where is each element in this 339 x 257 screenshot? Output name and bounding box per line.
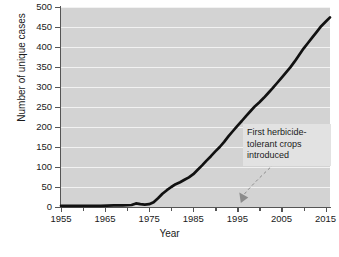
y-tick xyxy=(55,107,60,108)
y-tick xyxy=(55,47,60,48)
x-tick-label: 1985 xyxy=(173,214,213,224)
y-tick xyxy=(55,207,60,208)
y-tick xyxy=(55,27,60,28)
y-axis-title: Number of unique cases xyxy=(16,0,27,143)
x-tick-minor xyxy=(171,208,172,211)
x-tick xyxy=(326,208,327,212)
y-tick xyxy=(55,187,60,188)
x-tick-minor xyxy=(215,208,216,211)
x-tick-label: 2005 xyxy=(261,214,301,224)
x-tick xyxy=(149,208,150,212)
gridline xyxy=(61,187,330,188)
gridline xyxy=(61,47,330,48)
y-tick xyxy=(55,167,60,168)
gridline xyxy=(61,87,330,88)
x-tick-label: 1965 xyxy=(85,214,125,224)
gridline xyxy=(61,27,330,28)
x-tick-label: 1955 xyxy=(41,214,81,224)
gridline xyxy=(61,67,330,68)
x-axis-line xyxy=(60,207,331,208)
x-axis-title: Year xyxy=(0,228,339,239)
x-tick xyxy=(193,208,194,212)
gridline xyxy=(61,167,330,168)
x-tick-minor xyxy=(83,208,84,211)
annotation-herbicide-tolerant-crops: First herbicide- tolerant crops introduc… xyxy=(243,124,331,166)
x-tick-label: 1975 xyxy=(129,214,169,224)
x-tick xyxy=(281,208,282,212)
y-tick xyxy=(55,87,60,88)
x-tick xyxy=(237,208,238,212)
y-tick xyxy=(55,67,60,68)
gridline xyxy=(61,107,330,108)
x-tick xyxy=(105,208,106,212)
plot-area xyxy=(61,7,330,207)
gridline xyxy=(61,7,330,8)
y-tick-label: 50 xyxy=(0,182,52,192)
annotation-line-3: introduced xyxy=(247,150,328,162)
y-tick-label: 0 xyxy=(0,202,52,212)
x-tick-label: 2015 xyxy=(306,214,339,224)
x-tick-minor xyxy=(304,208,305,211)
x-tick-label: 1995 xyxy=(217,214,257,224)
y-tick xyxy=(55,147,60,148)
chart-figure: 050100150200250300350400450500 195519651… xyxy=(0,0,339,257)
x-tick-minor xyxy=(259,208,260,211)
caption-fragment xyxy=(0,247,339,257)
y-axis-line xyxy=(60,6,61,208)
y-tick xyxy=(55,7,60,8)
x-tick-minor xyxy=(127,208,128,211)
y-tick-label: 100 xyxy=(0,162,52,172)
y-tick xyxy=(55,127,60,128)
annotation-line-2: tolerant crops xyxy=(247,139,328,151)
y-tick-label: 150 xyxy=(0,142,52,152)
annotation-line-1: First herbicide- xyxy=(247,127,328,139)
x-tick xyxy=(61,208,62,212)
